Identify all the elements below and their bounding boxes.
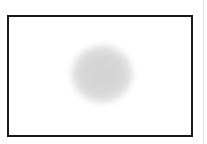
blurred-circle [71, 45, 133, 103]
canvas [0, 0, 207, 144]
image-frame [7, 15, 193, 137]
vertical-divider [203, 0, 204, 144]
